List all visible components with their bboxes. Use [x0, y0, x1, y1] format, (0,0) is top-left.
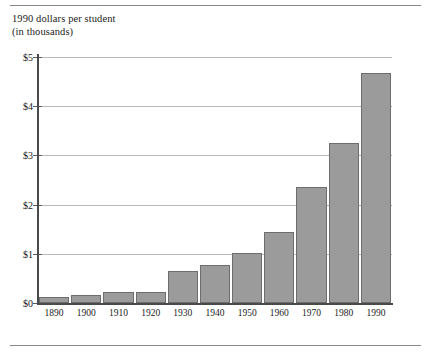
y-tick-label: $4: [23, 101, 33, 112]
y-axis-labels: $0$1$2$3$4$5: [0, 57, 33, 303]
x-tick-label: 1950: [238, 308, 257, 318]
bar: [296, 187, 326, 303]
bar: [168, 271, 198, 303]
y-tick-label: $3: [23, 150, 33, 161]
bar: [200, 265, 230, 303]
bar: [264, 232, 294, 303]
bar: [232, 253, 262, 303]
x-tick-label: 1980: [334, 308, 353, 318]
x-axis-labels: 1890190019101920193019401950196019701980…: [38, 308, 392, 326]
bar: [39, 297, 69, 303]
y-tick-label: $5: [23, 52, 33, 63]
y-tick-label: $0: [23, 298, 33, 309]
y-tick-label: $2: [23, 199, 33, 210]
x-tick-label: 1930: [173, 308, 192, 318]
chart-axis-title: 1990 dollars per student (in thousands): [12, 12, 116, 38]
bar-series: [38, 57, 392, 303]
x-tick-label: 1970: [302, 308, 321, 318]
y-tick-label: $1: [23, 248, 33, 259]
x-tick-label: 1900: [77, 308, 96, 318]
bar: [103, 292, 133, 303]
bar: [71, 295, 101, 303]
x-tick-label: 1910: [109, 308, 128, 318]
page-rule-top: [10, 5, 421, 6]
bar: [136, 292, 166, 303]
bar: [361, 73, 391, 303]
x-tick-label: 1940: [206, 308, 225, 318]
axis-title-line-1: 1990 dollars per student: [12, 12, 116, 25]
page-rule-bottom: [10, 345, 421, 346]
bar: [329, 143, 359, 303]
x-axis-line: [37, 303, 393, 305]
x-tick-label: 1990: [366, 308, 385, 318]
x-tick-label: 1960: [270, 308, 289, 318]
axis-title-line-2: (in thousands): [12, 25, 116, 38]
x-tick-label: 1920: [141, 308, 160, 318]
x-tick-label: 1890: [45, 308, 64, 318]
